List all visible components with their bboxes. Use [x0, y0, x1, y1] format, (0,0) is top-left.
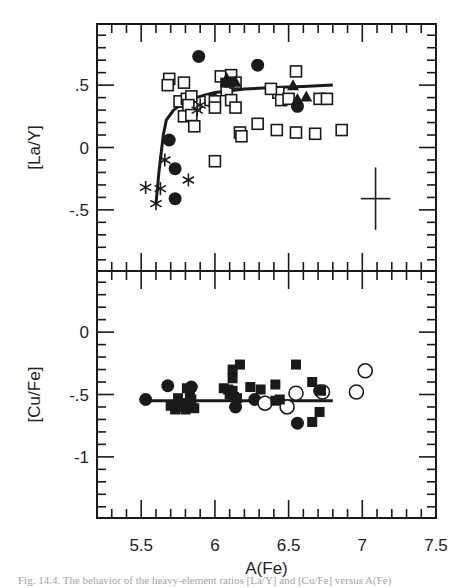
- top-point-circle-filled: [192, 50, 205, 63]
- top-point-circle-filled: [251, 59, 264, 72]
- top-point-circle-filled: [169, 162, 182, 175]
- bottom-point-square-filled: [270, 380, 280, 390]
- data-points: [139, 50, 372, 430]
- bottom-point-square-filled: [307, 417, 317, 427]
- fit-curves: [146, 85, 391, 401]
- bottom-point-circle-filled: [291, 417, 304, 430]
- bottom-point-circle-open: [349, 385, 363, 399]
- top-point-circle-filled: [163, 134, 176, 147]
- error-bar-cross: [361, 167, 390, 229]
- top-point-square-open: [209, 102, 220, 113]
- xtick-label: 7: [358, 536, 367, 555]
- top-point-square-filled: [225, 78, 235, 88]
- top-point-square-open: [310, 128, 321, 139]
- bottom-point-circle-open: [289, 386, 303, 400]
- axes: [97, 24, 436, 518]
- bottom-ylabel: [Cu/Fe]: [25, 367, 44, 423]
- xtick-label: 6: [210, 536, 219, 555]
- top-point-triangle-filled: [287, 79, 299, 90]
- top-point-square-open: [271, 125, 282, 136]
- bottom-point-circle-filled: [161, 379, 174, 392]
- bottom-ytick-label: 0: [80, 323, 89, 342]
- bottom-ytick-label: -.5: [69, 386, 89, 405]
- top-point-square-open: [230, 102, 241, 113]
- bottom-point-circle-filled: [139, 393, 152, 406]
- bottom-point-square-filled: [173, 393, 183, 403]
- top-point-asterisk: [183, 173, 194, 186]
- bottom-point-square-filled: [189, 403, 199, 413]
- figure-caption: Fig. 14.4. The behavior of the heavy-ele…: [18, 574, 391, 586]
- bottom-point-circle-open: [358, 364, 372, 378]
- top-point-square-open: [265, 83, 276, 94]
- bottom-point-square-filled: [186, 394, 196, 404]
- xtick-label: 5.5: [129, 536, 153, 555]
- bottom-point-square-filled: [232, 393, 242, 403]
- top-ytick-label: .5: [75, 76, 89, 95]
- bottom-point-square-filled: [307, 377, 317, 387]
- top-ytick-label: -.5: [69, 201, 89, 220]
- top-ylabel: [La/Y]: [25, 125, 44, 169]
- xtick-label: 7.5: [424, 536, 448, 555]
- bottom-point-square-filled: [256, 385, 266, 395]
- top-point-square-open: [321, 93, 332, 104]
- top-point-square-open: [178, 77, 189, 88]
- bottom-point-square-filled: [245, 382, 255, 392]
- top-point-square-open: [290, 127, 301, 138]
- bottom-ytick-label: -1: [74, 448, 89, 467]
- top-point-square-open: [236, 131, 247, 142]
- top-ytick-label: 0: [80, 139, 89, 158]
- top-point-square-open: [162, 80, 173, 91]
- bottom-point-square-filled: [315, 407, 325, 417]
- top-point-square-open: [336, 125, 347, 136]
- top-point-asterisk: [150, 197, 161, 210]
- bottom-point-square-filled: [235, 360, 245, 370]
- top-point-square-open: [189, 121, 200, 132]
- axis-labels: .50-.5[La/Y]0-.5-1[Cu/Fe]5.566.577.5A(Fe…: [25, 76, 448, 578]
- top-point-square-open: [209, 156, 220, 167]
- top-point-circle-filled: [169, 192, 182, 205]
- top-point-square-open: [290, 66, 301, 77]
- bottom-point-square-filled: [291, 360, 301, 370]
- bottom-point-circle-open: [258, 396, 272, 410]
- top-point-triangle-filled: [300, 91, 312, 102]
- bottom-point-square-filled: [275, 394, 285, 404]
- bottom-point-square-filled: [228, 373, 238, 383]
- xtick-label: 6.5: [277, 536, 301, 555]
- top-point-square-open: [252, 118, 263, 129]
- bottom-point-square-filled: [316, 386, 326, 396]
- top-panel-frame: [97, 24, 436, 271]
- top-point-asterisk: [140, 181, 151, 194]
